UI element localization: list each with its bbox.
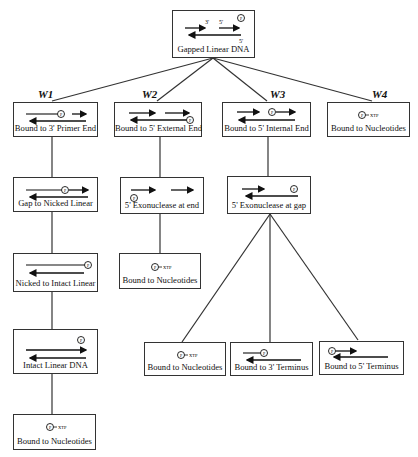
node-bound-to-5-terminus: P Bound to 5' Terminus bbox=[319, 341, 404, 375]
node-label: Bound to 5' Terminus bbox=[320, 361, 403, 371]
node-nicked-to-intact-linear: P Nicked to Intact Linear bbox=[13, 253, 98, 292]
node-bound-to-nucleotides-w1: P XTP Bound to Nucleotides bbox=[13, 414, 96, 450]
connector-lines bbox=[0, 0, 418, 457]
svg-text:XTP: XTP bbox=[58, 425, 67, 430]
node-intact-linear-dna: P Intact Linear DNA bbox=[13, 329, 98, 374]
node-label: Bound to 3' Primer End bbox=[14, 123, 97, 133]
node-label: Intact Linear DNA bbox=[14, 360, 97, 370]
node-label: Bound to Nucleotides bbox=[145, 362, 225, 372]
svg-text:XTP: XTP bbox=[189, 353, 198, 358]
node-label: 5' Exonuclease at end bbox=[121, 200, 203, 210]
node-label: Bound to 5' Internal End bbox=[223, 123, 310, 133]
node-bound-to-5-external-end: P Bound to 5' External End bbox=[114, 102, 202, 137]
node-label: Bound to 3' Terminus bbox=[231, 362, 312, 372]
node-label: Gapped Linear DNA bbox=[173, 44, 254, 54]
node-bound-to-3-terminus: P Bound to 3' Terminus bbox=[230, 342, 313, 376]
node-bound-to-nucleotides-w4: P XTP Bound to Nucleotides bbox=[327, 102, 410, 137]
node-bound-to-nucleotides-w3: P XTP Bound to Nucleotides bbox=[144, 342, 226, 376]
node-label: Bound to 5' External End bbox=[115, 123, 201, 133]
pathway-label-w3: W3 bbox=[270, 88, 285, 100]
svg-text:XTP: XTP bbox=[163, 265, 172, 270]
svg-text:5': 5' bbox=[219, 19, 223, 25]
root-node-gapped-linear-dna: P 3' 5' 5' Gapped Linear DNA bbox=[172, 10, 255, 58]
node-bound-to-5-internal-end: P Bound to 5' Internal End bbox=[222, 102, 311, 137]
node-label: 5' Exonuclease at gap bbox=[228, 200, 310, 210]
node-bound-to-3-primer-end: P Bound to 3' Primer End bbox=[13, 102, 98, 137]
svg-text:3': 3' bbox=[205, 19, 209, 25]
node-gap-to-nicked-linear: P Gap to Nicked Linear bbox=[13, 177, 98, 212]
svg-text:XTP: XTP bbox=[370, 113, 379, 118]
node-bound-to-nucleotides-w2: P XTP Bound to Nucleotides bbox=[119, 253, 201, 289]
node-label: Nicked to Intact Linear bbox=[14, 278, 97, 288]
node-label: Bound to Nucleotides bbox=[14, 436, 95, 446]
node-label: Bound to Nucleotides bbox=[120, 275, 200, 285]
pathway-label-w4: W4 bbox=[372, 88, 387, 100]
pathway-label-w1: W1 bbox=[38, 88, 53, 100]
node-label: Gap to Nicked Linear bbox=[14, 198, 97, 208]
node-5-exonuclease-at-end: P 5' Exonuclease at end bbox=[120, 177, 204, 214]
node-label: Bound to Nucleotides bbox=[328, 123, 409, 133]
pathway-label-w2: W2 bbox=[142, 88, 157, 100]
node-5-exonuclease-at-gap: P 5' Exonuclease at gap bbox=[227, 176, 311, 214]
